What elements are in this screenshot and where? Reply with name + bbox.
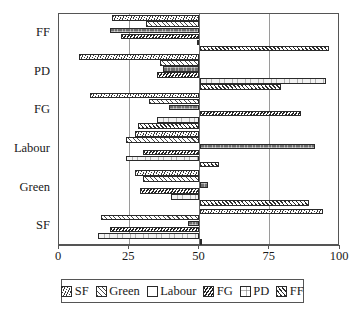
hatch-ff-swatch (276, 286, 287, 297)
bar-sf-green (101, 215, 199, 221)
legend-item-labour[interactable]: Labour (147, 285, 197, 298)
y-tick-label-sf: SF (0, 219, 50, 232)
bar-pd-green (160, 60, 199, 66)
hatch-sf-swatch (61, 286, 72, 297)
bar-labour-pd (126, 156, 199, 162)
legend-item-sf[interactable]: SF (61, 285, 88, 298)
bar-fg-labour (169, 105, 200, 111)
bar-sf-labour (188, 221, 199, 227)
bar-pd-pd (200, 78, 326, 84)
bar-green-sf (135, 170, 200, 176)
bar-ff-fg (121, 34, 200, 40)
bar-green-labour (200, 182, 208, 188)
bar-labour-sf (135, 131, 200, 137)
hatch-pd-swatch (240, 286, 251, 297)
diverging-bar-chart: FFPDFGLabourGreenSF 0255075100 SFGreenLa… (0, 0, 363, 316)
bar-fg-ff (138, 123, 200, 129)
bar-ff-pd (197, 40, 200, 46)
legend-item-pd[interactable]: PD (240, 285, 269, 298)
bar-sf-sf (200, 209, 324, 215)
y-tick-label-green: Green (0, 181, 50, 194)
y-tick-label-ff: FF (0, 26, 50, 39)
x-tick-label-0: 0 (55, 250, 61, 263)
bar-sf-ff (200, 239, 203, 245)
legend-item-ff[interactable]: FF (276, 285, 303, 298)
legend-label-sf: SF (75, 285, 89, 298)
x-tick-label-50: 50 (192, 250, 205, 263)
bar-pd-fg (157, 72, 199, 78)
bar-green-ff (200, 200, 310, 206)
x-tick-label-75: 75 (263, 250, 276, 263)
bar-fg-green (149, 99, 200, 105)
bar-labour-fg (143, 150, 199, 156)
legend-label-fg: FG (217, 285, 233, 298)
bar-ff-sf (112, 15, 199, 21)
x-axis-line (58, 245, 339, 246)
bar-sf-pd (98, 233, 199, 239)
gridline-25 (129, 14, 130, 244)
legend-label-labour: Labour (160, 285, 196, 298)
bar-pd-sf (79, 54, 200, 60)
bar-green-fg (140, 188, 199, 194)
bar-green-green (143, 176, 199, 182)
bar-green-pd (171, 194, 199, 200)
x-axis-tick-labels: 0255075100 (0, 250, 363, 266)
y-tick-label-pd: PD (0, 65, 50, 78)
y-tick-label-fg: FG (0, 103, 50, 116)
legend-item-fg[interactable]: FG (203, 285, 232, 298)
hatch-fg-swatch (203, 286, 214, 297)
bar-fg-pd (157, 117, 199, 123)
hatch-labour-swatch (147, 286, 158, 297)
bar-ff-ff (200, 46, 329, 52)
legend-item-green[interactable]: Green (96, 285, 140, 298)
bar-fg-sf (90, 93, 200, 99)
y-tick-label-labour: Labour (0, 142, 50, 155)
bar-labour-ff (200, 162, 220, 168)
bar-ff-labour (110, 28, 200, 34)
bar-labour-green (126, 137, 199, 143)
legend-label-green: Green (109, 285, 140, 298)
bar-fg-fg (200, 111, 301, 117)
plot-area (58, 13, 339, 245)
chart-legend: SFGreenLabourFGPDFF (61, 279, 304, 303)
y-axis-labels: FFPDFGLabourGreenSF (0, 13, 54, 245)
hatch-green-swatch (96, 286, 107, 297)
legend-label-pd: PD (253, 285, 269, 298)
x-tick-label-100: 100 (330, 250, 349, 263)
bar-pd-labour (163, 66, 200, 72)
bar-pd-ff (200, 84, 281, 90)
bar-ff-green (146, 21, 199, 27)
bar-labour-labour (200, 144, 315, 150)
x-tick-label-25: 25 (122, 250, 135, 263)
bar-sf-fg (110, 227, 200, 233)
legend-label-ff: FF (290, 285, 304, 298)
